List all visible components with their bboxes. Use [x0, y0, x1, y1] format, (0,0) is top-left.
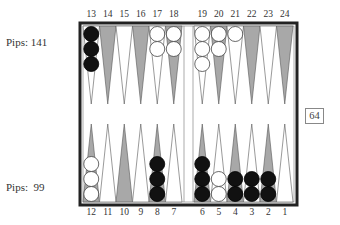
- black-checker[interactable]: [261, 187, 276, 202]
- white-checker[interactable]: [195, 42, 210, 57]
- white-checker[interactable]: [195, 57, 210, 72]
- black-checker[interactable]: [195, 172, 210, 187]
- white-checker[interactable]: [84, 172, 99, 187]
- white-checker[interactable]: [150, 42, 165, 57]
- black-checker[interactable]: [228, 187, 243, 202]
- white-checker[interactable]: [211, 27, 226, 42]
- black-checker[interactable]: [150, 187, 165, 202]
- black-checker[interactable]: [84, 27, 99, 42]
- black-checker[interactable]: [261, 172, 276, 187]
- black-checker[interactable]: [195, 187, 210, 202]
- white-checker[interactable]: [211, 172, 226, 187]
- backgammon-board[interactable]: [0, 0, 340, 225]
- white-checker[interactable]: [211, 187, 226, 202]
- black-checker[interactable]: [84, 42, 99, 57]
- black-checker[interactable]: [150, 172, 165, 187]
- white-checker[interactable]: [211, 42, 226, 57]
- white-checker[interactable]: [84, 157, 99, 172]
- white-checker[interactable]: [84, 187, 99, 202]
- black-checker[interactable]: [244, 187, 259, 202]
- black-checker[interactable]: [84, 57, 99, 72]
- black-checker[interactable]: [244, 172, 259, 187]
- white-checker[interactable]: [195, 27, 210, 42]
- white-checker[interactable]: [228, 27, 243, 42]
- white-checker[interactable]: [166, 27, 181, 42]
- black-checker[interactable]: [228, 172, 243, 187]
- black-checker[interactable]: [150, 157, 165, 172]
- white-checker[interactable]: [150, 27, 165, 42]
- white-checker[interactable]: [166, 42, 181, 57]
- black-checker[interactable]: [195, 157, 210, 172]
